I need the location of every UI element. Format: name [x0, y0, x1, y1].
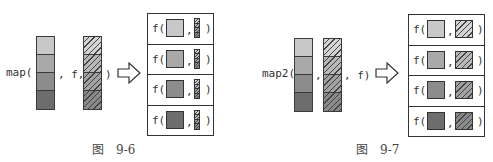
- close-paren: ): [477, 55, 484, 67]
- result-row-1: f( , ): [409, 15, 484, 46]
- map2-call-prefix: map2(: [262, 68, 295, 80]
- hatched-cell-3: [324, 75, 341, 93]
- solid-element: [427, 81, 445, 99]
- hatched-element: [455, 81, 473, 99]
- hatched-element: [455, 51, 473, 69]
- close-paren: ): [477, 85, 484, 97]
- hatched-element: [455, 112, 473, 130]
- hatched-cell-1: [324, 39, 341, 57]
- caption-label: 图: [356, 143, 368, 157]
- arg-separator: ,: [447, 118, 454, 130]
- arg-separator: ,: [447, 57, 454, 69]
- function-call-label: f(: [413, 116, 426, 128]
- result-row-2: f( , ): [409, 46, 484, 77]
- arg-separator: ,: [447, 26, 454, 38]
- close-paren: ): [477, 24, 484, 36]
- solid-element: [427, 51, 445, 69]
- hatched-vector-column: [323, 38, 342, 112]
- solid-cell-2: [295, 57, 312, 75]
- result-row-4: f( , ): [409, 107, 484, 138]
- figure-9-7: map2( , , f) f( , ) f( , ): [0, 0, 493, 162]
- function-call-label: f(: [413, 55, 426, 67]
- solid-vector-column: [294, 38, 313, 112]
- solid-element: [427, 20, 445, 38]
- map2-args-separator: ,: [315, 70, 322, 82]
- solid-cell-1: [295, 39, 312, 57]
- caption-number: 9-7: [380, 143, 399, 157]
- map2-tail: , f): [344, 70, 371, 82]
- hatched-cell-4: [324, 93, 341, 111]
- result-row-3: f( , ): [409, 76, 484, 107]
- function-call-label: f(: [413, 24, 426, 36]
- arg-separator: ,: [447, 87, 454, 99]
- solid-cell-4: [295, 93, 312, 111]
- function-call-label: f(: [413, 85, 426, 97]
- figure-caption: 图9-7: [356, 140, 399, 157]
- solid-element: [427, 112, 445, 130]
- hollow-right-arrow-icon: [375, 62, 399, 84]
- result-box: f( , ) f( , ) f( , ) f( , ): [408, 14, 485, 137]
- close-paren: ): [477, 116, 484, 128]
- solid-cell-3: [295, 75, 312, 93]
- hatched-cell-2: [324, 57, 341, 75]
- hatched-element: [455, 20, 473, 38]
